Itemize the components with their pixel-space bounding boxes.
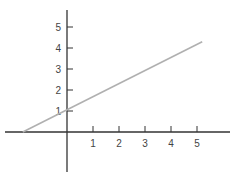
y-tick-label: 2 xyxy=(55,85,61,96)
y-tick-label: 4 xyxy=(55,43,61,54)
x-tick-label: 2 xyxy=(116,138,122,149)
data-series xyxy=(23,42,202,132)
x-tick-label: 3 xyxy=(142,138,148,149)
x-tick-label: 1 xyxy=(90,138,96,149)
x-tick-label: 4 xyxy=(168,138,174,149)
line-chart: 12345 12345 xyxy=(0,0,242,172)
x-tick-label: 5 xyxy=(194,138,200,149)
y-tick-label: 5 xyxy=(55,22,61,33)
x-ticks: 12345 xyxy=(90,126,200,149)
y-tick-label: 3 xyxy=(55,64,61,75)
y-ticks: 12345 xyxy=(55,22,73,117)
series-line xyxy=(23,42,202,132)
